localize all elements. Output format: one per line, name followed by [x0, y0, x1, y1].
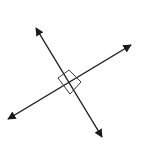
perpendicular-lines-diagram: [0, 0, 143, 166]
background: [0, 0, 143, 166]
